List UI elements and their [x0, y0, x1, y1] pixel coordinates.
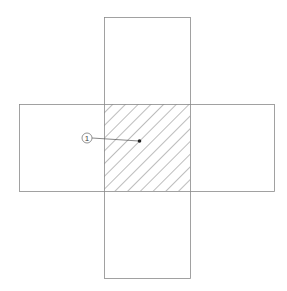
overlap-region [104, 104, 190, 191]
center-dot [138, 139, 142, 143]
callout-number: 1 [85, 134, 90, 143]
cross-diagram: 1 [0, 0, 287, 291]
